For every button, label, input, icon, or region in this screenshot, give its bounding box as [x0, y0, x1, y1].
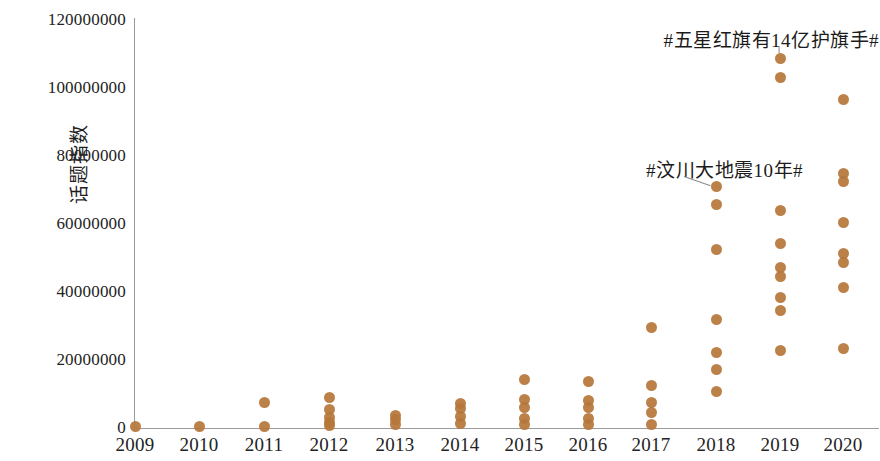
- y-tick-label: 120000000: [48, 10, 126, 30]
- data-point: [583, 402, 594, 413]
- x-tick-label: 2020: [823, 434, 862, 456]
- annotation-label: #汶川大地震10年#: [646, 155, 803, 182]
- data-point: [259, 421, 270, 432]
- x-tick-label: 2014: [440, 434, 479, 456]
- data-point: [390, 419, 401, 430]
- data-point: [838, 282, 849, 293]
- x-tick-label: 2016: [568, 434, 607, 456]
- data-point: [838, 217, 849, 228]
- y-axis-tick-labels: 1200000001000000008000000060000000400000…: [0, 0, 126, 461]
- y-tick-label: 60000000: [56, 214, 126, 234]
- x-tick-label: 2013: [375, 434, 414, 456]
- data-point: [646, 419, 657, 430]
- data-point: [130, 421, 141, 432]
- data-point: [775, 305, 786, 316]
- data-point: [711, 244, 722, 255]
- y-tick-label: 40000000: [56, 282, 126, 302]
- x-tick-label: 2015: [504, 434, 543, 456]
- data-point: [324, 392, 335, 403]
- x-tick-label: 2017: [631, 434, 670, 456]
- data-point: [775, 271, 786, 282]
- data-point: [711, 347, 722, 358]
- data-point: [646, 407, 657, 418]
- data-point: [711, 199, 722, 210]
- data-point: [583, 376, 594, 387]
- annotation-label: #五星红旗有14亿护旗手#: [664, 25, 880, 52]
- y-tick-label: 80000000: [56, 146, 126, 166]
- data-point: [711, 181, 722, 192]
- data-point: [775, 238, 786, 249]
- x-tick-label: 2010: [179, 434, 218, 456]
- x-tick-label: 2018: [696, 434, 735, 456]
- data-point: [583, 419, 594, 430]
- y-tick-label: 100000000: [48, 78, 126, 98]
- data-point: [775, 72, 786, 83]
- x-tick-label: 2009: [115, 434, 154, 456]
- data-point: [775, 292, 786, 303]
- data-point: [838, 343, 849, 354]
- x-tick-label: 2019: [760, 434, 799, 456]
- data-point: [646, 322, 657, 333]
- data-point: [838, 257, 849, 268]
- data-point: [838, 176, 849, 187]
- y-tick-label: 20000000: [56, 350, 126, 370]
- data-point: [711, 314, 722, 325]
- data-point: [711, 364, 722, 375]
- data-point: [838, 94, 849, 105]
- data-point: [519, 374, 530, 385]
- x-axis-line: [134, 428, 879, 429]
- scatter-chart-figure: 话题指数 12000000010000000080000000600000004…: [0, 0, 880, 461]
- data-point: [775, 53, 786, 64]
- data-point: [646, 380, 657, 391]
- x-tick-label: 2011: [245, 434, 284, 456]
- x-tick-label: 2012: [309, 434, 348, 456]
- data-point: [519, 419, 530, 430]
- data-point: [775, 205, 786, 216]
- data-point: [711, 386, 722, 397]
- data-point: [259, 397, 270, 408]
- data-point: [324, 420, 335, 431]
- data-point: [194, 421, 205, 432]
- y-axis-line: [134, 18, 135, 429]
- data-point: [519, 402, 530, 413]
- data-point: [775, 345, 786, 356]
- data-point: [455, 418, 466, 429]
